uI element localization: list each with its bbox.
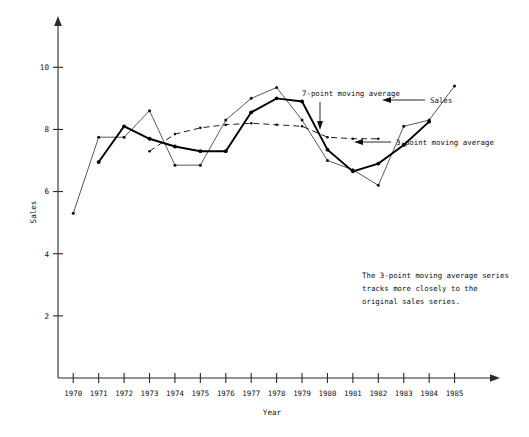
y-tick-group: 246810 [40,63,63,321]
data-point [250,97,253,100]
sales-moving-average-line-chart: 246810 197019711972197319741975197619771… [0,0,529,437]
x-tick-label: 1979 [293,389,311,398]
y-tick-label: 4 [44,250,49,259]
y-axis-title: Sales [29,201,38,224]
data-point [224,149,228,153]
x-tick-label: 1977 [242,389,260,398]
x-axis-arrowhead [490,374,500,382]
data-point [173,145,177,149]
data-point [352,137,355,140]
data-point [122,124,126,128]
data-point [275,86,278,89]
data-point [199,127,202,130]
data-point [301,125,304,128]
note-line-2: tracks more closely to the [362,284,478,293]
data-point [300,100,304,104]
series-line-3-point-moving-average [99,98,429,171]
x-tick-label: 1973 [141,389,159,398]
y-tick-label: 10 [40,63,50,72]
data-point [351,169,355,173]
y-tick-label: 2 [44,312,49,321]
data-point [72,212,75,215]
data-point [97,160,101,164]
data-point [174,133,177,136]
data-point [250,122,253,125]
data-point [249,110,253,114]
x-tick-label: 1978 [268,389,286,398]
data-point [326,159,329,162]
series-line-7-point-moving-average [150,123,379,151]
data-point [376,162,380,166]
x-tick-label: 1981 [344,389,362,398]
x-tick-label: 1976 [217,389,235,398]
data-point [427,120,431,124]
y-axis-arrowhead [54,16,62,26]
x-tick-label: 1982 [369,389,387,398]
x-tick-label: 1980 [319,389,337,398]
y-axis [54,16,62,378]
data-point [377,137,380,140]
data-point [148,137,152,141]
y-tick-label: 8 [44,125,49,134]
data-point [173,164,176,167]
data-point [123,136,126,139]
data-point [326,136,329,139]
data-point [275,123,278,126]
x-tick-label: 1984 [420,389,438,398]
data-point [453,84,456,87]
chart-note: The 3-point moving average series tracks… [362,271,509,306]
data-point [326,148,330,152]
data-point [224,123,227,126]
x-tick-label: 1974 [166,389,184,398]
x-tick-label: 1971 [90,389,108,398]
note-line-1: The 3-point moving average series [362,271,509,280]
data-point [148,109,151,112]
data-point [97,136,100,139]
x-tick-label: 1972 [115,389,133,398]
data-point [198,149,202,153]
data-point [275,96,279,100]
data-point [402,125,405,128]
data-point [301,119,304,122]
leader-3-point-moving-average [354,139,391,145]
x-tick-label: 1975 [191,389,209,398]
data-point [148,150,151,153]
chart-figure: 246810 197019711972197319741975197619771… [0,0,529,437]
label-7-point-moving-average: 7-point moving average [302,89,400,98]
data-point [377,184,380,187]
x-tick-label: 1983 [395,389,413,398]
leader-7-point-moving-average [317,102,323,130]
x-axis-title: Year [263,408,282,417]
label-3-point-moving-average: 3-point moving average [396,138,494,147]
label-sales: Sales [430,96,452,105]
x-tick-group: 1970197119721973197419751976197719781979… [64,373,463,398]
data-point [224,119,227,122]
y-tick-label: 6 [44,187,49,196]
note-line-3: original sales series. [362,297,460,306]
leader-sales [382,97,425,103]
x-tick-label: 1985 [446,389,464,398]
data-point [199,164,202,167]
x-tick-label: 1970 [64,389,82,398]
